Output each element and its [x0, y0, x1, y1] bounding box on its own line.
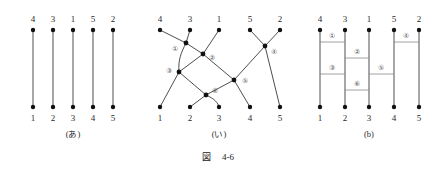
panel-b-vertex-4	[263, 44, 268, 49]
panel-b-wire-f	[179, 54, 203, 72]
panel-b-top-node-2	[188, 28, 192, 32]
panel-b-bottom-label-3: 3	[217, 113, 222, 123]
panel-a: 4 3 1 5 2 1 2 3 4 5 (あ)	[31, 14, 116, 139]
panel-c-crossing-label-5: ⑤	[378, 64, 384, 71]
panel-a-top-label-4: 5	[91, 14, 96, 24]
panel-b-wire-l	[190, 95, 206, 107]
figure-container: 4 3 1 5 2 1 2 3 4 5 (あ) 4 3 1 5	[0, 0, 441, 170]
panel-b-crossing-label-1: ①	[172, 45, 178, 52]
panel-a-bottom-label-4: 4	[91, 113, 96, 123]
panel-b-bottom-label-1: 1	[158, 113, 163, 123]
panel-c-top-node-4	[392, 28, 396, 32]
panel-b-bottom-node-3	[217, 105, 221, 109]
panel-c-crossing-label-3: ③	[329, 64, 335, 71]
panel-c-top-label-1: 4	[318, 14, 323, 24]
panel-b-bottom-node-1	[158, 105, 162, 109]
panel-c-top-node-2	[343, 28, 347, 32]
panel-a-bottom-label-1: 1	[31, 113, 36, 123]
panel-b-vertex-3	[177, 70, 182, 75]
panel-b-crossing-label-4: ④	[271, 48, 277, 55]
panel-b-top-node-1	[158, 28, 162, 32]
panel-b-bottom-label-4: 4	[248, 113, 253, 123]
panel-c-bottom-label-1: 1	[318, 113, 323, 123]
panel-b-crossing-label-6: ⑥	[212, 87, 218, 94]
panel-a-caption: (あ)	[66, 129, 81, 139]
panel-a-top-label-3: 1	[71, 14, 76, 24]
panel-b-top-node-5	[278, 28, 282, 32]
panel-b-wire-d	[186, 43, 203, 54]
panel-c-bottom-label-2: 2	[343, 113, 348, 123]
panel-a-top-label-2: 3	[51, 14, 56, 24]
panel-c-bottom-node-1	[318, 105, 322, 109]
panel-c-top-label-5: 2	[417, 14, 422, 24]
panel-b-top-node-3	[217, 28, 221, 32]
panel-b-wire-s	[265, 46, 280, 107]
panel-c-crossing-label-2: ②	[354, 48, 360, 55]
panel-b-crossing-label-3: ③	[166, 67, 172, 74]
panel-a-top-node-3	[71, 28, 75, 32]
panel-a-top-node-2	[51, 28, 55, 32]
panel-b-caption: (い)	[212, 129, 227, 139]
panel-c-bottom-node-2	[343, 105, 347, 109]
panel-a-top-node-4	[91, 28, 95, 32]
figure-label-number: 4-6	[222, 152, 234, 162]
panel-b-bottom-label-2: 2	[188, 113, 193, 123]
panel-a-bottom-node-4	[91, 105, 95, 109]
panel-b-top-label-1: 4	[158, 14, 163, 24]
panel-b-vertex-1	[184, 41, 189, 46]
panel-c-top-node-1	[318, 28, 322, 32]
panel-a-bottom-node-1	[31, 105, 35, 109]
panel-b-bottom-label-5: 5	[278, 113, 283, 123]
panel-b-wire-o	[234, 80, 250, 107]
panel-b-wire-h	[160, 72, 179, 107]
panel-b-bottom-node-2	[188, 105, 192, 109]
panel-b-bottom-node-5	[278, 105, 282, 109]
panel-b-bottom-node-4	[248, 105, 252, 109]
panel-a-bottom-label-3: 3	[71, 113, 76, 123]
panel-b-vertex-5	[232, 78, 237, 83]
panel-b-wire-a	[160, 30, 186, 43]
panel-c-caption: (b)	[364, 129, 374, 139]
panel-c-bottom-node-5	[417, 105, 421, 109]
panel-b-wires	[160, 30, 280, 107]
panel-b-wire-n	[206, 80, 234, 95]
panel-c-bottom-label-3: 3	[367, 113, 372, 123]
panel-a-bottom-node-3	[71, 105, 75, 109]
panel-c-top-node-3	[367, 28, 371, 32]
panel-a-top-label-5: 2	[111, 14, 116, 24]
panel-b-vertex-2	[201, 52, 206, 57]
panel-b-top-label-4: 5	[248, 14, 253, 24]
panel-b-top-node-4	[248, 28, 252, 32]
panel-b-top-label-3: 1	[217, 14, 222, 24]
panel-b-wire-e	[203, 30, 219, 54]
panel-b-top-label-2: 3	[188, 14, 193, 24]
panel-b-wire-q	[250, 30, 265, 46]
panel-b-wire-p	[234, 46, 265, 80]
panel-b-top-label-5: 2	[278, 14, 283, 24]
figure-label: 図 4-6	[202, 152, 235, 162]
panel-b-wire-m	[206, 95, 219, 107]
panel-a-bottom-node-5	[111, 105, 115, 109]
panel-c-bottom-label-5: 5	[417, 113, 422, 123]
panel-a-bottom-node-2	[51, 105, 55, 109]
panel-a-top-node-1	[31, 28, 35, 32]
panel-c-crossing-label-1: ①	[329, 32, 335, 39]
panel-a-bottom-label-2: 2	[51, 113, 56, 123]
panel-a-bottom-label-5: 5	[111, 113, 116, 123]
panel-b-wire-g	[203, 54, 234, 80]
panel-c-crossing-label-4: ④	[403, 32, 409, 39]
panel-b-wire-r	[265, 30, 280, 46]
panel-c-top-label-4: 5	[392, 14, 397, 24]
panel-a-top-node-5	[111, 28, 115, 32]
panel-b-vertex-6	[204, 93, 209, 98]
figure-label-mark: 図	[202, 152, 211, 162]
panel-b: 4 3 1 5 2	[158, 14, 283, 139]
panel-b-crossing-label-5: ⑤	[242, 77, 248, 84]
figure-svg: 4 3 1 5 2 1 2 3 4 5 (あ) 4 3 1 5	[0, 0, 441, 170]
panel-c-bottom-label-4: 4	[392, 113, 397, 123]
panel-c-crossing-label-6: ⑥	[354, 80, 360, 87]
panel-a-top-label-1: 4	[31, 14, 36, 24]
panel-c-bottom-node-3	[367, 105, 371, 109]
panel-c: 4 3 1 5 2 ① ② ③ ④ ⑤	[318, 14, 422, 139]
panel-c-top-node-5	[417, 28, 421, 32]
